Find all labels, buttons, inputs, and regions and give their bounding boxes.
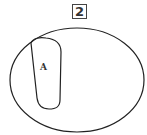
universe-ellipse xyxy=(10,28,144,132)
venn-diagram xyxy=(0,0,147,135)
set-a-shape xyxy=(31,38,61,109)
set-a-label: A xyxy=(40,62,47,72)
